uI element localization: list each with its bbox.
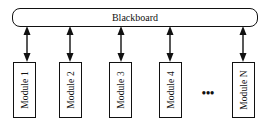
module-3-box: Module 3 <box>109 62 132 118</box>
arrow-head-down-icon <box>24 53 31 62</box>
blackboard-architecture-diagram: Blackboard Module 1 Module 2 Module 3 Mo… <box>0 0 267 122</box>
module-n-box: Module N <box>232 62 255 118</box>
module-1-box: Module 1 <box>13 62 36 118</box>
module-3-label: Module 3 <box>116 71 126 108</box>
arrow-head-up-icon <box>24 26 31 35</box>
module-2-box: Module 2 <box>59 62 82 118</box>
module-1-label: Module 1 <box>20 71 30 108</box>
module-n-label: Module N <box>239 70 249 110</box>
blackboard-box: Blackboard <box>12 8 258 27</box>
arrow-head-up-icon <box>118 26 125 35</box>
ellipsis-more-modules: ••• <box>198 86 218 100</box>
module-2-label: Module 2 <box>66 71 76 108</box>
arrow-head-down-icon <box>118 53 125 62</box>
blackboard-label: Blackboard <box>112 12 158 23</box>
arrow-head-down-icon <box>67 53 74 62</box>
arrow-head-up-icon <box>240 26 247 35</box>
arrow-head-up-icon <box>67 26 74 35</box>
module-4-label: Module 4 <box>166 71 176 108</box>
module-4-box: Module 4 <box>159 62 182 118</box>
arrow-head-down-icon <box>167 53 174 62</box>
arrow-head-up-icon <box>167 26 174 35</box>
arrow-head-down-icon <box>240 53 247 62</box>
